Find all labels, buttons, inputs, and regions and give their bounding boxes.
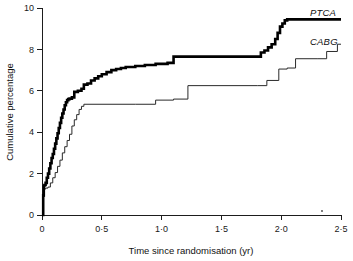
x-axis-ticks (42, 215, 341, 220)
stray-speck (321, 210, 323, 212)
y-tick-label: 8 (29, 45, 34, 55)
y-axis-tick-labels: 0246810 (24, 3, 34, 220)
x-axis: 00·51·01·52·02·5 (39, 215, 347, 234)
y-tick-label: 10 (24, 3, 34, 13)
cabg-curve (42, 44, 341, 215)
x-tick-label: 2·0 (275, 224, 288, 234)
y-axis-title: Cumulative percentage (4, 63, 15, 161)
x-tick-label: 1·5 (215, 224, 228, 234)
x-tick-label: 0 (39, 224, 44, 234)
series-label-cabg: CABG (310, 36, 338, 47)
y-tick-label: 2 (29, 169, 34, 179)
x-axis-title: Time since randomisation (yr) (129, 245, 254, 256)
cumulative-percentage-chart: 0246810 00·51·01·52·02·5 Time since rand… (0, 0, 353, 261)
y-tick-label: 0 (29, 210, 34, 220)
y-axis: 0246810 (24, 3, 42, 220)
series-label-ptca: PTCA (310, 7, 336, 18)
chart-figure: 0246810 00·51·01·52·02·5 Time since rand… (0, 0, 353, 261)
y-axis-ticks (37, 8, 42, 215)
x-axis-tick-labels: 00·51·01·52·02·5 (39, 224, 347, 234)
y-tick-label: 4 (29, 127, 34, 137)
x-tick-label: 1·0 (155, 224, 168, 234)
ptca-curve (42, 19, 341, 215)
y-tick-label: 6 (29, 86, 34, 96)
x-tick-label: 2·5 (334, 224, 347, 234)
x-tick-label: 0·5 (95, 224, 108, 234)
